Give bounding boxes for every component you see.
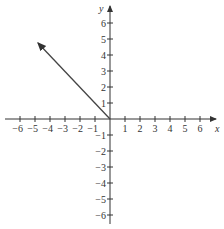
x-tick-label: 1 [123,123,128,134]
y-tick-label: 6 [101,18,106,29]
y-tick-label: 2 [101,82,106,93]
x-tick-label: −5 [27,123,38,134]
x-tick-label: −4 [42,123,53,134]
coordinate-plane: −6−5−4−3−2−1123456654321−1−2−3−4−5−6 x y [0,0,224,229]
y-tick-label: 4 [101,50,106,61]
y-tick-label: −1 [95,130,106,141]
x-tick-label: 3 [153,123,158,134]
x-tick-label: −2 [72,123,83,134]
x-tick-label: −6 [12,123,23,134]
y-axis-label: y [98,3,104,14]
x-tick-label: −3 [57,123,68,134]
x-tick-label: 6 [198,123,203,134]
x-tick-label: 5 [183,123,188,134]
y-tick-label: −6 [95,210,106,221]
x-tick-label: 4 [168,123,173,134]
y-tick-label: −4 [95,178,106,189]
x-tick-label: 2 [138,123,143,134]
x-axis-label: x [214,123,220,134]
y-tick-label: 5 [101,34,106,45]
y-tick-label: 3 [101,66,106,77]
y-tick-label: 1 [101,98,106,109]
y-tick-label: −2 [95,146,106,157]
y-tick-label: −5 [95,194,106,205]
ray [38,43,110,119]
y-tick-label: −3 [95,162,106,173]
